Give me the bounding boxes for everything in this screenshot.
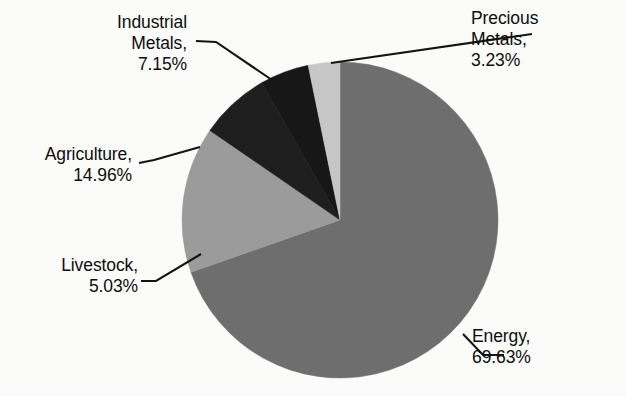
slice-label-precious-metals-line1: Precious: [471, 8, 538, 28]
slice-label-energy-line1: Energy,: [472, 326, 530, 346]
leader-line-industrial-metals: [196, 41, 272, 80]
slice-label-industrial-metals-line1: Industrial: [117, 12, 187, 32]
slice-label-livestock-line2: 5.03%: [89, 276, 138, 296]
leader-line-agriculture: [139, 147, 200, 163]
slice-label-energy: Energy,69.63%: [472, 326, 622, 368]
slice-label-agriculture: Agriculture,14.96%: [4, 144, 132, 186]
slice-label-livestock-line1: Livestock,: [61, 255, 138, 275]
slice-label-precious-metals-line2: Metals,: [471, 29, 527, 49]
slice-label-agriculture-line1: Agriculture,: [45, 144, 132, 164]
slice-label-livestock: Livestock,5.03%: [10, 255, 138, 297]
slice-label-industrial-metals-line3: 7.15%: [138, 54, 187, 74]
slice-label-industrial-metals: IndustrialMetals,7.15%: [35, 12, 187, 75]
pie-slices-group: [182, 62, 498, 378]
pie-chart-figure: IndustrialMetals,7.15% PreciousMetals,3.…: [0, 0, 626, 396]
slice-label-precious-metals: PreciousMetals,3.23%: [471, 8, 621, 71]
slice-label-agriculture-line2: 14.96%: [73, 165, 132, 185]
slice-label-precious-metals-line3: 3.23%: [471, 50, 520, 70]
slice-label-industrial-metals-line2: Metals,: [131, 33, 187, 53]
slice-label-energy-line2: 69.63%: [472, 347, 531, 367]
